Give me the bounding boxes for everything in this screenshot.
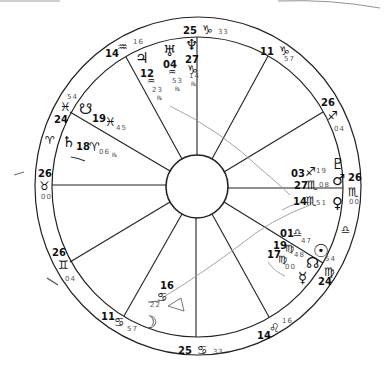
retrograde-icon: ℞ — [157, 95, 162, 101]
cusp-degree: 24 — [54, 115, 68, 125]
saturn-degree: 18 — [76, 142, 90, 152]
virgo-sign-icon: ♍ — [285, 244, 294, 254]
cusp-minutes: 33 — [218, 28, 229, 36]
neptune-minutes: 14 — [189, 73, 200, 80]
cusp-minutes: 16 — [133, 39, 144, 46]
scorpio-sign-icon: ♏ — [307, 179, 318, 191]
scan-mark — [278, 1, 380, 8]
cusp-degree: 11 — [260, 46, 274, 57]
center-circle — [166, 155, 228, 218]
cusp-minutes: 00 — [41, 194, 52, 201]
aquarius-sign-icon: ♒ — [168, 68, 176, 77]
cusp-degree: 26 — [38, 169, 52, 179]
cusp-minutes: 04 — [334, 126, 345, 133]
uranus-icon: ♅ — [163, 44, 176, 59]
mars-icon: ♂ — [332, 173, 345, 188]
libra-intercepted-icon: ♎ — [341, 225, 350, 235]
jupiter-minutes: 23 — [152, 87, 163, 94]
jupiter-icon: ♃ — [135, 51, 148, 66]
cusp-10-label: 25 ♑ 33 — [183, 21, 229, 37]
venus-minutes: 51 — [316, 200, 327, 207]
uranus-minutes: 53 — [172, 78, 183, 85]
pluto-minutes: 19 — [316, 168, 327, 175]
pluto-degree: 03 — [291, 169, 305, 179]
sagittarius-sign-icon: ♐ — [305, 166, 316, 178]
cusp-degree: 24 — [318, 277, 332, 287]
cusp-minutes: 16 — [282, 318, 293, 325]
cusp-minutes: 00 — [349, 199, 360, 206]
south-node-degree: 19 — [92, 114, 106, 124]
mars-minutes: 08 — [319, 182, 330, 189]
cusp-4-label: 25 ♋ 33 — [178, 341, 224, 357]
mercury-icon: ☿ — [298, 271, 307, 286]
mars-degree: 27 — [294, 181, 308, 191]
gemini-sign-icon: ♊ — [58, 259, 69, 271]
aquarius-sign-icon: ♒ — [117, 41, 128, 53]
pisces-sign-icon: ♓ — [105, 116, 116, 128]
retrograde-icon: ℞ — [191, 81, 196, 87]
cusp-minutes: 57 — [284, 56, 295, 63]
cusp-minutes: 33 — [213, 348, 224, 356]
venus-degree: 14 — [293, 197, 307, 207]
pisces-sign-icon: ♓ — [60, 101, 71, 113]
north-node-minutes: 48 — [294, 252, 305, 259]
venus-icon: ♀ — [332, 196, 343, 211]
cusp-minutes: 57 — [127, 326, 138, 333]
retrograde-icon: ℞ — [175, 86, 180, 92]
north-node-icon: ☊ — [306, 256, 319, 271]
cusp-degree: 25 — [183, 25, 197, 36]
neptune-icon: ♆ — [185, 38, 198, 53]
aries-intercepted-icon: ♈ — [45, 135, 55, 146]
sagittarius-sign-icon: ♐ — [327, 110, 338, 122]
cusp-degree: 11 — [101, 312, 115, 322]
retrograde-icon: ℞ — [112, 152, 117, 158]
cusp-degree: 25 — [178, 345, 192, 356]
mercury-minutes: 00 — [285, 264, 296, 271]
scorpio-sign-icon: ♏ — [348, 186, 359, 198]
moon-icon: ☽ — [142, 314, 157, 331]
cusp-minutes: 04 — [65, 276, 76, 283]
south-node-icon: ☋ — [79, 102, 92, 117]
taurus-sign-icon: ♉ — [39, 180, 50, 192]
cusp-degree: 26 — [348, 173, 362, 183]
cancer-sign-icon: ♋ — [197, 343, 208, 357]
capricorn-sign-icon: ♑ — [202, 23, 213, 37]
cusp-degree: 26 — [321, 98, 335, 108]
moon-minutes: 22 — [150, 302, 161, 309]
saturn-minutes: 06 — [99, 149, 110, 156]
cusp-degree: 26 — [52, 248, 66, 258]
sun-minutes: 47 — [301, 238, 312, 245]
aquarius-sign-icon: ♒ — [147, 77, 155, 86]
saturn-icon: ♄ — [62, 135, 75, 150]
sun-degree: 01 — [280, 229, 294, 239]
pluto-icon: ♇ — [331, 157, 344, 172]
cancer-sign-icon: ♋ — [114, 316, 125, 328]
south-node-minutes: 45 — [116, 125, 127, 132]
cusp-degree: 14 — [257, 331, 271, 341]
